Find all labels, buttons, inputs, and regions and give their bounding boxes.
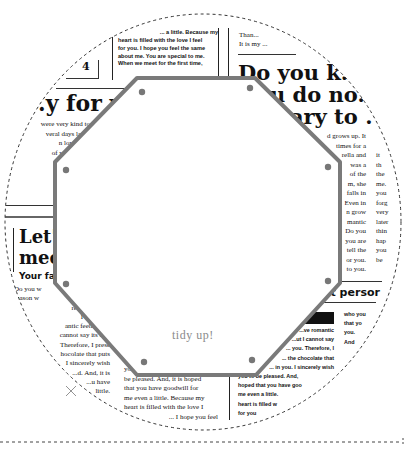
dot-icon <box>247 85 253 91</box>
template-shapes <box>0 0 407 452</box>
dot-icon <box>249 357 255 363</box>
dot-icon <box>63 167 69 173</box>
dot-icon <box>325 164 331 170</box>
tidy-up-label: tidy up! <box>172 328 214 343</box>
scissors-icon <box>66 386 76 396</box>
dot-icon <box>141 359 147 365</box>
dot-icon <box>63 281 69 287</box>
dot-icon <box>139 89 145 95</box>
dot-icon <box>325 278 331 284</box>
printable-template: ... a little. Because my heart is filled… <box>0 0 407 452</box>
